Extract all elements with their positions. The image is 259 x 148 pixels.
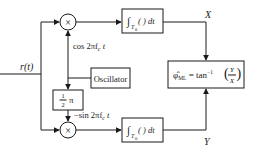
phase-shift-block: 1 2 π — [53, 90, 83, 110]
ml-phase-estimator-diagram: r(t) × ∫ T 0 ( ) dt X cos 2πfc t Oscilla… — [0, 0, 259, 148]
multiply-icon: × — [65, 125, 71, 136]
svg-text:π: π — [69, 95, 74, 105]
svg-text:1: 1 — [61, 92, 64, 99]
input-label: r(t) — [20, 61, 34, 73]
svg-text:( ) dt: ( ) dt — [138, 125, 155, 135]
lower-integrator: ∫ T 0 ( ) dt — [122, 118, 163, 142]
multiply-icon: × — [65, 17, 71, 28]
cos-reference-label: cos 2πfc t — [73, 41, 106, 52]
y-label: Y — [204, 136, 211, 147]
ml-estimator-block: φ̂ML = tan−1 ( Y X ) — [168, 61, 244, 88]
upper-integrator: ∫ T 0 ( ) dt — [122, 9, 163, 33]
lower-multiplier: × — [60, 122, 76, 138]
svg-text:X: X — [229, 77, 235, 85]
svg-text:( ) dt: ( ) dt — [138, 16, 155, 26]
upper-multiplier: × — [60, 14, 76, 30]
sin-reference-label: −sin 2πfc t — [74, 110, 110, 121]
svg-text:2: 2 — [61, 101, 64, 108]
svg-text:Oscillator: Oscillator — [94, 74, 128, 84]
svg-text:): ) — [237, 66, 242, 82]
oscillator-block: Oscillator — [91, 68, 130, 88]
x-label: X — [204, 9, 212, 20]
svg-text:(: ( — [224, 66, 229, 82]
